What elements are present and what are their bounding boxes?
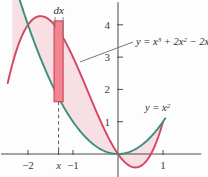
parabola-equation-label: y = x2	[144, 102, 171, 114]
y-axis-ticks: 1234	[105, 19, 124, 128]
y-tick-label-1: 2	[105, 83, 111, 95]
parabola-label-base: y = x	[144, 102, 167, 113]
x-tick-label-2: −1	[67, 159, 79, 171]
shaded-region-group	[12, 0, 163, 167]
area-between-curves-chart: −2x−11 1234 dx y = x3 + 2x2 − 2x y = x2	[0, 0, 208, 177]
representative-strip-group	[54, 17, 63, 154]
x-tick-label-1: x	[55, 159, 61, 171]
y-tick-label-3: 4	[105, 19, 111, 31]
y-tick-label-2: 3	[105, 51, 111, 63]
dx-label: dx	[53, 4, 64, 16]
cubic-label-base: y = x	[135, 36, 158, 47]
cubic-label-tail: − 2x	[187, 36, 208, 47]
x-tick-label-3: 1	[160, 159, 166, 171]
parabola-label-exp: 2	[167, 102, 171, 110]
cubic-label-mid: + 2x	[161, 36, 184, 47]
x-tick-label-0: −2	[22, 159, 34, 171]
y-tick-label-0: 1	[105, 116, 111, 128]
cubic-equation-label: y = x3 + 2x2 − 2x	[135, 36, 208, 48]
representative-strip	[54, 21, 63, 102]
figure-root: −2x−11 1234 dx y = x3 + 2x2 − 2x y = x2	[0, 0, 208, 177]
shaded-area-between-curves	[12, 0, 163, 167]
